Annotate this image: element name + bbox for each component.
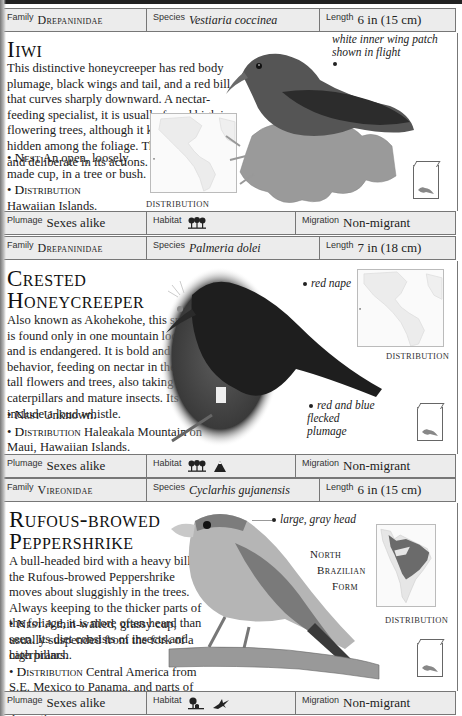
family-value: Drepaninidae xyxy=(38,13,103,28)
habitat-cell: Habitat xyxy=(147,455,296,477)
title-line: Crested xyxy=(7,268,144,290)
iiwi-bird-illustration xyxy=(222,36,417,208)
annotation-leader-line xyxy=(252,520,272,521)
plumage-value: Sexes alike xyxy=(47,215,106,231)
plumage-cell: Plumage Sexes alike xyxy=(1,455,147,477)
nest-label: Nest xyxy=(17,616,43,631)
migration-cell: Migration Non-migrant xyxy=(296,692,455,714)
length-cell: Length 6 in (15 cm) xyxy=(320,9,455,31)
family-cell: Family Vireonidae xyxy=(1,479,147,501)
species-label: Species xyxy=(153,12,185,22)
plumage-label: Plumage xyxy=(7,695,43,705)
title-line: Rufous-browed xyxy=(9,509,160,531)
annotation-dot xyxy=(333,62,337,66)
annotation-text: white inner wing patch shown in flight xyxy=(332,33,438,58)
annotation-gray-head: large, gray head xyxy=(280,513,356,526)
plumage-cell: Plumage Sexes alike xyxy=(1,692,147,714)
length-cell: Length 6 in (15 cm) xyxy=(320,479,455,501)
migration-cell: Migration Non-migrant xyxy=(296,455,455,477)
mountain-icon xyxy=(214,461,226,472)
habitat-label: Habitat xyxy=(153,695,182,705)
americas-map-icon xyxy=(358,270,443,346)
woodland-edge-icon xyxy=(188,697,204,710)
forest-icon xyxy=(188,460,206,472)
entry-1-header: Family Drepaninidae Species Vestiaria co… xyxy=(0,8,456,32)
distribution-label: Distribution xyxy=(15,182,81,197)
entry-3-header: Family Vireonidae Species Cyclarhis guja… xyxy=(0,478,456,502)
length-label: Length xyxy=(326,482,354,492)
family-cell: Family Drepaninidae xyxy=(1,237,147,259)
page-top-rule xyxy=(0,0,462,4)
field-guide-book-icon xyxy=(417,643,443,677)
habitat-label: Habitat xyxy=(153,458,182,468)
species-title: Rufous-browed Peppershrike xyxy=(9,509,160,553)
family-value: Vireonidae xyxy=(38,483,93,498)
species-details: • Nest An open, loosely made cup, in a t… xyxy=(7,150,147,214)
family-value: Drepaninidae xyxy=(38,241,103,256)
species-value: Vestiaria coccinea xyxy=(189,13,277,28)
bird-silhouette-icon xyxy=(421,427,439,437)
map-caption: Distribution xyxy=(146,199,209,209)
length-cell: Length 7 in (18 cm) xyxy=(320,237,455,259)
map-caption: Distribution xyxy=(386,351,449,361)
entry-1-footer: Plumage Sexes alike Habitat Migration No… xyxy=(0,211,456,235)
entry-2-body: Crested Honeycreeper Also known as Akohe… xyxy=(0,261,458,454)
distribution-line: • DistributionHawaiian Islands. xyxy=(7,182,147,214)
plumage-value: Sexes alike xyxy=(47,695,106,711)
form-label-line: Form xyxy=(300,578,370,594)
length-value: 6 in (15 cm) xyxy=(358,482,422,498)
form-label: North Brazilian Form xyxy=(300,546,370,594)
entry-2-header: Family Drepaninidae Species Palmeria dol… xyxy=(0,236,456,260)
annotation-dot xyxy=(272,518,276,522)
entry-2-footer: Plumage Sexes alike Habitat Migration No… xyxy=(0,454,456,478)
nest-label: Nest xyxy=(15,407,41,422)
species-cell: Species Vestiaria coccinea xyxy=(147,9,320,31)
species-label: Species xyxy=(153,240,185,250)
family-label: Family xyxy=(7,482,34,492)
annotation-text: red and blue flecked plumage xyxy=(307,399,375,437)
bird-silhouette-icon xyxy=(417,185,435,195)
species-value: Palmeria dolei xyxy=(189,241,261,256)
forest-icon xyxy=(188,217,206,229)
plumage-label: Plumage xyxy=(7,215,43,225)
annotation-red-nape: red nape xyxy=(311,277,351,290)
entry-3-footer: Plumage Sexes alike Habitat Migration No… xyxy=(0,691,456,715)
length-label: Length xyxy=(326,12,354,22)
habitat-label: Habitat xyxy=(153,215,182,225)
distribution-map xyxy=(357,269,444,347)
entry-3-body: Rufous-browed Peppershrike A bull-headed… xyxy=(0,503,458,691)
length-value: 6 in (15 cm) xyxy=(358,12,422,28)
species-cell: Species Palmeria dolei xyxy=(147,237,320,259)
field-guide-book-icon xyxy=(417,407,443,441)
nest-text: Unknown. xyxy=(43,408,96,422)
migration-value: Non-migrant xyxy=(343,695,410,711)
page-binding-shadow xyxy=(0,0,6,716)
migration-label: Migration xyxy=(302,215,339,225)
migration-value: Non-migrant xyxy=(343,215,410,231)
bird-silhouette-icon xyxy=(421,663,439,673)
family-label: Family xyxy=(7,12,34,22)
plumage-label: Plumage xyxy=(7,458,43,468)
length-value: 7 in (18 cm) xyxy=(358,240,422,256)
annotation-text: large, gray head xyxy=(280,513,356,525)
migration-label: Migration xyxy=(302,458,339,468)
title-line: Honeycreeper xyxy=(7,290,144,312)
species-label: Species xyxy=(153,482,185,492)
habitat-cell: Habitat xyxy=(147,212,296,234)
south-america-map-icon xyxy=(377,525,435,606)
migration-label: Migration xyxy=(302,695,339,705)
form-label-line: North xyxy=(300,546,370,562)
migration-value: Non-migrant xyxy=(343,458,410,474)
species-cell: Species Cyclarhis gujanensis xyxy=(147,479,320,501)
plumage-cell: Plumage Sexes alike xyxy=(1,212,147,234)
distribution-label: Distribution xyxy=(15,424,81,439)
species-title: Iiwi xyxy=(7,39,42,61)
title-line: Peppershrike xyxy=(9,531,160,553)
migration-cell: Migration Non-migrant xyxy=(296,212,455,234)
species-title: Crested Honeycreeper xyxy=(7,268,144,312)
habitat-cell: Habitat xyxy=(147,692,296,714)
nest-line: • Nest An open, loosely made cup, in a t… xyxy=(7,150,147,182)
length-label: Length xyxy=(326,240,354,250)
field-guide-book-icon xyxy=(413,165,439,199)
annotation-wing-patch: white inner wing patch shown in flight xyxy=(332,33,442,59)
